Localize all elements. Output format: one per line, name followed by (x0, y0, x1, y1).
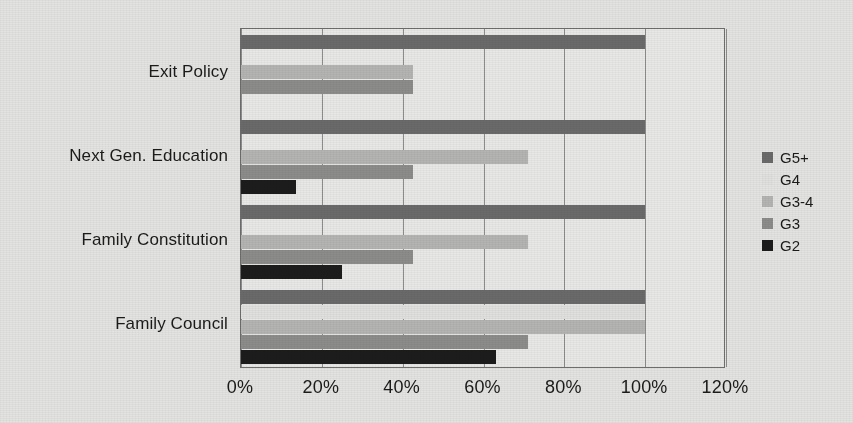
bar-g3-4-exit-policy (241, 65, 413, 79)
bar-g3-family-council (241, 335, 528, 349)
y-axis-label-1: Next Gen. Education (69, 146, 228, 166)
x-tick-label-3: 60% (464, 377, 501, 398)
bar-g3-4-family-council (241, 320, 645, 334)
legend-label: G4 (780, 171, 800, 188)
legend-swatch-icon (762, 196, 773, 207)
y-axis-label-2: Family Constitution (82, 230, 228, 250)
bar-g5--family-council (241, 290, 645, 304)
bar-g5--family-constitution (241, 205, 645, 219)
bar-g2-next-gen-education (241, 180, 296, 194)
y-axis-category-labels: Exit Policy Next Gen. Education Family C… (0, 0, 228, 423)
bar-groups (241, 29, 724, 367)
legend-label: G3-4 (780, 193, 813, 210)
legend-item-g3-4: G3-4 (762, 190, 850, 212)
bar-g2-family-council (241, 350, 496, 364)
legend: G5+G4G3-4G3G2 (762, 146, 850, 256)
bar-chart: Exit Policy Next Gen. Education Family C… (0, 0, 853, 423)
legend-item-g3: G3 (762, 212, 850, 234)
x-tick-label-6: 120% (702, 377, 749, 398)
bar-group (241, 284, 724, 369)
bar-g3-family-constitution (241, 250, 413, 264)
bar-g3-4-next-gen-education (241, 150, 528, 164)
x-tick-label-0: 0% (227, 377, 253, 398)
legend-item-g5-: G5+ (762, 146, 850, 168)
bar-g5--next-gen-education (241, 120, 645, 134)
bar-group (241, 114, 724, 199)
bar-group (241, 29, 724, 114)
legend-label: G3 (780, 215, 800, 232)
bar-g2-family-constitution (241, 265, 342, 279)
legend-label: G5+ (780, 149, 809, 166)
plot-area (240, 28, 725, 368)
x-tick-label-4: 80% (545, 377, 582, 398)
legend-swatch-icon (762, 218, 773, 229)
legend-item-g2: G2 (762, 234, 850, 256)
bar-g3-next-gen-education (241, 165, 413, 179)
bar-g3-4-family-constitution (241, 235, 528, 249)
gridline-6 (726, 29, 727, 367)
legend-swatch-icon (762, 240, 773, 251)
bar-g4-family-council (241, 305, 645, 319)
x-axis-tick-labels: 0%20%40%60%80%100%120% (0, 377, 853, 407)
legend-label: G2 (780, 237, 800, 254)
bar-g3-exit-policy (241, 80, 413, 94)
legend-item-g4: G4 (762, 168, 850, 190)
y-axis-label-0: Exit Policy (148, 62, 228, 82)
legend-swatch-icon (762, 174, 773, 185)
x-tick-label-1: 20% (303, 377, 340, 398)
y-axis-label-3: Family Council (115, 314, 228, 334)
x-tick-label-5: 100% (621, 377, 668, 398)
legend-swatch-icon (762, 152, 773, 163)
bar-group (241, 199, 724, 284)
x-tick-label-2: 40% (383, 377, 420, 398)
bar-g5--exit-policy (241, 35, 645, 49)
